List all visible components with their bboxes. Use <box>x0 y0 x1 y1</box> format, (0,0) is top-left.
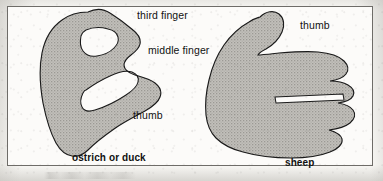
label-third-finger: third finger <box>137 9 188 21</box>
label-thumb-right-hand: thumb <box>300 19 330 31</box>
left-hand-fill <box>40 9 161 156</box>
left-hand-shape <box>40 9 161 156</box>
right-hand-shape <box>206 12 355 158</box>
label-thumb-left-hand: thumb <box>133 109 163 121</box>
caption-sheep: sheep <box>285 157 314 168</box>
right-hand-fill <box>206 12 355 158</box>
label-middle-finger: middle finger <box>148 44 209 56</box>
figure-page: third finger middle finger thumb thumb o… <box>0 0 383 181</box>
caption-ostrich-or-duck: ostrich or duck <box>72 152 146 163</box>
